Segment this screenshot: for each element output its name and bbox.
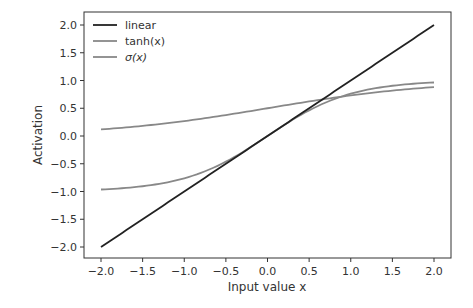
x-tick-label: 0.5 [300,265,318,278]
y-tick-label: 0.5 [60,102,78,115]
y-tick-label: 1.0 [60,75,78,88]
x-axis-ticks: −2.0−1.5−1.0−0.50.00.51.01.52.0 [88,258,443,278]
series-lines [101,25,434,247]
y-tick-label: −0.5 [50,158,77,171]
legend: lineartanh(x)σ(x) [93,19,165,64]
y-tick-label: −2.0 [50,241,77,254]
legend-label: tanh(x) [125,35,165,48]
y-tick-label: −1.5 [50,213,77,226]
x-tick-label: 0.0 [259,265,277,278]
y-axis-ticks: −2.0−1.5−1.0−0.50.00.51.01.52.0 [50,19,84,254]
legend-label: σ(x) [125,51,147,64]
y-axis-label: Activation [31,105,45,165]
x-tick-label: −1.0 [171,265,198,278]
sigmoid-line [101,87,434,129]
y-tick-label: 2.0 [60,19,78,32]
x-axis-label: Input value x [228,280,307,294]
x-tick-label: −0.5 [213,265,240,278]
x-tick-label: 1.0 [342,265,360,278]
y-tick-label: −1.0 [50,186,77,199]
y-tick-label: 1.5 [60,47,78,60]
x-tick-label: −2.0 [88,265,115,278]
activation-chart: −2.0−1.5−1.0−0.50.00.51.01.52.0 −2.0−1.5… [0,0,473,308]
linear-line [101,25,434,247]
x-tick-label: 1.5 [384,265,402,278]
y-tick-label: 0.0 [60,130,78,143]
legend-label: linear [125,19,157,32]
x-tick-label: −1.5 [129,265,156,278]
x-tick-label: 2.0 [425,265,443,278]
